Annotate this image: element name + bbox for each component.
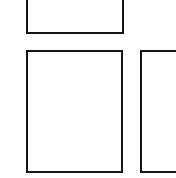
bottom-left-rectangle xyxy=(26,50,123,173)
bottom-right-rectangle xyxy=(140,50,176,173)
top-rectangle xyxy=(26,0,124,34)
diagram-canvas xyxy=(0,0,176,178)
